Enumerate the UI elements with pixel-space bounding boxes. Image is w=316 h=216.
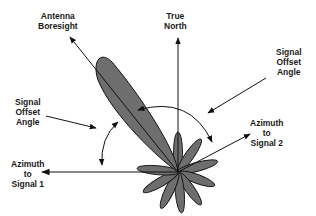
label-line: Offset [276, 57, 302, 67]
label-line: Signal 1 [11, 179, 45, 189]
label-line: Angle [276, 67, 302, 77]
offset-leader-left [46, 116, 96, 128]
label-line: Azimuth [250, 118, 284, 128]
label-antenna-boresight: Antenna Boresight [38, 11, 78, 31]
label-line: Signal [276, 47, 302, 57]
label-signal-offset-angle-left: Signal Offset Angle [15, 97, 41, 127]
boresight-arrow [70, 37, 178, 172]
label-line: Offset [15, 107, 41, 117]
label-line: Azimuth [11, 159, 45, 169]
antenna-diagram [0, 0, 316, 216]
label-line: Signal 2 [250, 138, 284, 148]
label-line: to [11, 169, 45, 179]
label-signal-offset-angle-right: Signal Offset Angle [276, 47, 302, 77]
label-line: Antenna [38, 11, 78, 21]
label-line: to [250, 128, 284, 138]
label-line: Boresight [38, 21, 78, 31]
label-true-north: True North [164, 11, 187, 31]
label-line: Signal [15, 97, 41, 107]
offset-arc-left [102, 122, 118, 165]
label-azimuth-signal-2: Azimuth to Signal 2 [250, 118, 284, 148]
label-line: North [164, 21, 187, 31]
label-line: True [164, 11, 187, 21]
offset-leader-right [208, 78, 266, 113]
label-azimuth-signal-1: Azimuth to Signal 1 [11, 159, 45, 189]
main-lobe [96, 57, 178, 172]
label-line: Angle [15, 117, 41, 127]
